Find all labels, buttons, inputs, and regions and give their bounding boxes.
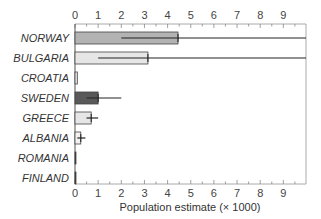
bar-chart: 0123456789 0123456789 NORWAYBULGARIACROA…	[0, 0, 321, 219]
top-tick-label: 1	[95, 9, 101, 21]
bar-finland	[75, 172, 76, 184]
top-tick-label: 0	[72, 9, 78, 21]
bottom-tick-label: 9	[280, 187, 286, 199]
top-tick-label: 6	[211, 9, 217, 21]
category-label-finland: FINLAND	[22, 172, 69, 184]
category-label-greece: GREECE	[23, 112, 70, 124]
bottom-tick-label: 3	[141, 187, 147, 199]
category-labels: NORWAYBULGARIACROATIASWEDENGREECEALBANIA…	[13, 32, 69, 184]
x-axis-title: Population estimate (× 1000)	[120, 201, 261, 213]
bottom-tick-label: 2	[118, 187, 124, 199]
top-tick-label: 8	[257, 9, 263, 21]
category-label-croatia: CROATIA	[21, 72, 69, 84]
top-tick-label: 5	[188, 9, 194, 21]
top-tick-label: 2	[118, 9, 124, 21]
bars	[75, 24, 306, 184]
top-x-axis: 0123456789	[72, 9, 306, 28]
category-label-albania: ALBANIA	[22, 132, 69, 144]
top-tick-label: 4	[165, 9, 171, 21]
bar-romania	[75, 152, 76, 164]
top-tick-label: 7	[234, 9, 240, 21]
bottom-tick-label: 5	[188, 187, 194, 199]
top-tick-label: 3	[141, 9, 147, 21]
bottom-tick-label: 6	[211, 187, 217, 199]
category-label-romania: ROMANIA	[18, 152, 69, 164]
bottom-tick-label: 4	[165, 187, 171, 199]
bottom-tick-label: 8	[257, 187, 263, 199]
bottom-tick-label: 7	[234, 187, 240, 199]
top-tick-label: 9	[280, 9, 286, 21]
bottom-tick-label: 0	[72, 187, 78, 199]
bar-croatia	[75, 72, 77, 84]
bottom-x-axis: 0123456789	[72, 180, 306, 199]
category-label-sweden: SWEDEN	[21, 92, 69, 104]
category-label-norway: NORWAY	[21, 32, 70, 44]
bottom-tick-label: 1	[95, 187, 101, 199]
category-label-bulgaria: BULGARIA	[13, 52, 69, 64]
